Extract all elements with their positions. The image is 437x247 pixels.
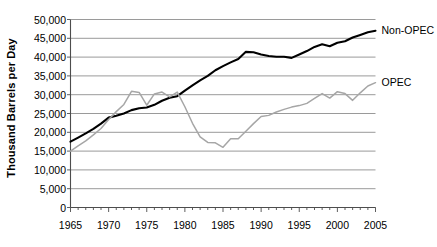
y-tick-label: 5,000 [20,183,66,195]
y-tick-label: 50,000 [20,14,66,26]
y-tick-label: 10,000 [20,164,66,176]
y-tick-label: 30,000 [20,89,66,101]
series-line-non-opec [71,31,376,142]
y-tick-label: 40,000 [20,51,66,63]
series-label-non-opec: Non-OPEC [382,24,435,36]
series-label-opec: OPEC [382,76,412,88]
chart-container: Thousand Barrels per Day 05,00010,00015,… [0,0,437,247]
y-tick-label: 20,000 [20,126,66,138]
x-tick-label: 2005 [364,219,387,231]
data-series-group [71,31,376,151]
y-axis-tick-labels: 05,00010,00015,00020,00025,00030,00035,0… [16,0,66,247]
x-tick-label: 1985 [211,219,234,231]
y-tick-label: 15,000 [20,145,66,157]
y-tick-label: 45,000 [20,32,66,44]
x-tick-label: 1970 [97,219,120,231]
x-axis-tick-marks [71,208,376,213]
x-tick-label: 1965 [59,219,82,231]
x-tick-label: 1990 [249,219,272,231]
x-tick-label: 1980 [173,219,196,231]
x-tick-label: 1995 [288,219,311,231]
x-tick-label: 2000 [326,219,349,231]
y-tick-label: 0 [20,202,66,214]
y-tick-label: 35,000 [20,70,66,82]
series-line-opec [71,83,376,151]
y-tick-label: 25,000 [20,108,66,120]
gridlines [71,20,376,208]
x-tick-label: 1975 [135,219,158,231]
